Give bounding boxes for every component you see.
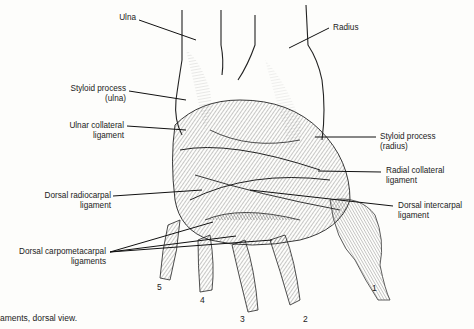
label-ulna: Ulna — [96, 13, 136, 23]
figure-caption: aments, dorsal view. — [0, 313, 77, 323]
metacarpal-number-5: 5 — [157, 282, 162, 292]
wrist-illustration — [0, 0, 474, 329]
metacarpal-number-2: 2 — [303, 314, 308, 324]
label-styloid-ulna-line2: (ulna) — [45, 94, 126, 104]
label-dorsal-cmc-line1: Dorsal carpometacarpal — [0, 247, 106, 257]
metacarpal-number-3: 3 — [240, 314, 245, 324]
metacarpal-1 — [330, 199, 390, 300]
label-ulnar-collateral-line1: Ulnar collateral — [40, 121, 124, 131]
label-dorsal-intercarpal-line1: Dorsal intercarpal — [398, 201, 462, 211]
label-radius: Radius — [333, 23, 359, 33]
label-dorsal-intercarpal-line2: ligament — [398, 211, 429, 221]
label-styloid-radius-line2: (radius) — [380, 142, 408, 152]
label-radial-collateral-line2: ligament — [386, 176, 417, 186]
label-dorsal-radiocarpal-line2: ligament — [20, 201, 111, 211]
metacarpal-number-1: 1 — [372, 283, 377, 293]
label-dorsal-radiocarpal-line1: Dorsal radiocarpal — [20, 191, 111, 201]
label-styloid-ulna-line1: Styloid process — [45, 84, 126, 94]
label-styloid-radius-line1: Styloid process — [380, 132, 436, 142]
label-radial-collateral-line1: Radial collateral — [386, 166, 444, 176]
label-dorsal-cmc-line2: ligaments — [0, 257, 106, 267]
label-ulnar-collateral-line2: ligament — [40, 131, 124, 141]
metacarpal-number-4: 4 — [200, 295, 205, 305]
